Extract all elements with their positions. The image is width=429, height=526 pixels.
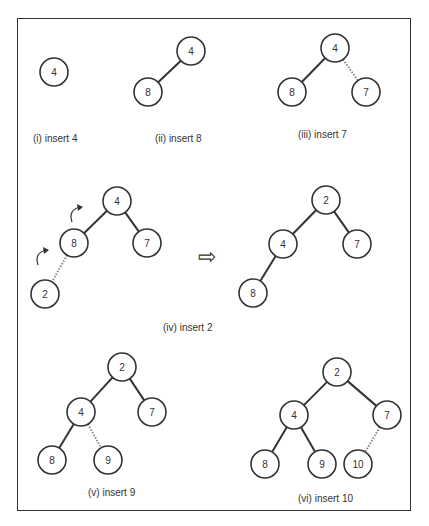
edge-iv-after-0 bbox=[293, 210, 316, 234]
node-label: 7 bbox=[354, 239, 360, 250]
heap-node: 4 bbox=[280, 401, 308, 429]
heap-node: 8 bbox=[60, 229, 88, 257]
node-label: 2 bbox=[334, 367, 340, 378]
panel-iv-after: 2478 bbox=[239, 186, 371, 307]
nodes-layer: 44848748722478247892478910 bbox=[31, 34, 401, 478]
new-edge-v-3 bbox=[88, 424, 101, 448]
transform-arrow-icon: ⇨ bbox=[198, 244, 216, 269]
edge-iv-after-2 bbox=[260, 256, 275, 281]
heap-node: 4 bbox=[177, 37, 205, 65]
heap-node: 8 bbox=[38, 446, 66, 474]
caption-ii: (ii) insert 8 bbox=[155, 133, 202, 144]
node-label: 10 bbox=[352, 459, 364, 470]
edge-v-0 bbox=[90, 377, 112, 401]
heap-node: 8 bbox=[134, 78, 162, 106]
caption-v: (v) insert 9 bbox=[88, 487, 136, 498]
heap-node: 2 bbox=[108, 353, 136, 381]
edge-iv-before-1 bbox=[125, 212, 139, 231]
heap-node: 7 bbox=[352, 78, 380, 106]
edge-vi-3 bbox=[301, 427, 315, 452]
caption-iv-before: (iv) insert 2 bbox=[163, 322, 213, 333]
panel-iii: 487 bbox=[278, 34, 380, 106]
edge-v-1 bbox=[130, 379, 144, 401]
node-label: 4 bbox=[51, 67, 57, 78]
edge-iv-after-1 bbox=[334, 211, 349, 232]
heap-node: 4 bbox=[67, 398, 95, 426]
caption-iii: (iii) insert 7 bbox=[298, 129, 347, 140]
heap-node: 7 bbox=[133, 229, 161, 257]
edge-v-2 bbox=[59, 424, 74, 448]
rotation-arrowhead-icon bbox=[77, 204, 83, 211]
node-label: 7 bbox=[144, 238, 150, 249]
node-label: 8 bbox=[71, 238, 77, 249]
new-edge-iv-before-2 bbox=[52, 255, 67, 282]
heap-node: 7 bbox=[343, 230, 371, 258]
heap-node: 9 bbox=[94, 446, 122, 474]
new-edge-vi-4 bbox=[365, 427, 380, 452]
edge-iii-0 bbox=[302, 58, 325, 82]
edge-vi-1 bbox=[348, 381, 377, 406]
heap-node: 4 bbox=[269, 230, 297, 258]
heap-node: 7 bbox=[138, 398, 166, 426]
heap-node: 10 bbox=[344, 450, 372, 478]
node-label: 8 bbox=[145, 87, 151, 98]
node-label: 2 bbox=[42, 289, 48, 300]
heap-node: 8 bbox=[278, 78, 306, 106]
heap-insertion-diagram: 44848748722478247892478910 (i) insert 4(… bbox=[0, 0, 429, 526]
node-label: 9 bbox=[105, 455, 111, 466]
node-label: 8 bbox=[289, 87, 295, 98]
node-label: 4 bbox=[114, 196, 120, 207]
node-label: 8 bbox=[262, 459, 268, 470]
heap-node: 2 bbox=[31, 280, 59, 308]
heap-node: 4 bbox=[321, 34, 349, 62]
heap-node: 4 bbox=[103, 187, 131, 215]
node-label: 2 bbox=[119, 362, 125, 373]
node-label: 2 bbox=[323, 195, 329, 206]
node-label: 9 bbox=[319, 459, 325, 470]
new-edge-iii-1 bbox=[343, 59, 358, 80]
edge-vi-0 bbox=[304, 382, 327, 405]
caption-i: (i) insert 4 bbox=[33, 133, 78, 144]
node-label: 7 bbox=[149, 407, 155, 418]
edge-vi-2 bbox=[272, 427, 287, 452]
heap-node: 2 bbox=[312, 186, 340, 214]
captions-layer: (i) insert 4(ii) insert 8(iii) insert 7(… bbox=[33, 129, 353, 504]
edge-iv-before-0 bbox=[84, 211, 107, 233]
heap-node: 2 bbox=[323, 358, 351, 386]
heap-node: 9 bbox=[308, 450, 336, 478]
panel-v: 24789 bbox=[38, 353, 166, 474]
rotation-arrowhead-icon bbox=[43, 247, 49, 254]
node-label: 8 bbox=[250, 288, 256, 299]
caption-vi: (vi) insert 10 bbox=[298, 493, 353, 504]
node-label: 4 bbox=[280, 239, 286, 250]
node-label: 7 bbox=[363, 87, 369, 98]
node-label: 8 bbox=[49, 455, 55, 466]
node-label: 4 bbox=[78, 407, 84, 418]
panel-i: 4 bbox=[40, 58, 68, 86]
panel-iv-before: 4872 bbox=[31, 187, 161, 308]
panel-vi: 2478910 bbox=[251, 358, 401, 478]
heap-node: 7 bbox=[373, 401, 401, 429]
edge-ii-0 bbox=[158, 61, 181, 83]
heap-node: 4 bbox=[40, 58, 68, 86]
heap-node: 8 bbox=[251, 450, 279, 478]
node-label: 4 bbox=[291, 410, 297, 421]
node-label: 4 bbox=[332, 43, 338, 54]
node-label: 7 bbox=[384, 410, 390, 421]
node-label: 4 bbox=[188, 46, 194, 57]
heap-node: 8 bbox=[239, 279, 267, 307]
